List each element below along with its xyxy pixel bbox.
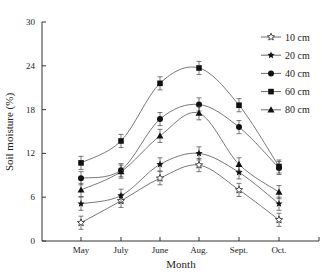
square-icon bbox=[276, 164, 282, 170]
triangle-icon bbox=[276, 189, 283, 195]
triangle-icon bbox=[78, 186, 85, 192]
legend: 10 cm20 cm40 cm60 cm80 cm bbox=[261, 32, 310, 116]
legend-label: 80 cm bbox=[285, 104, 310, 115]
soil-moisture-chart: 0612182430MayJulyJuneAug.Sept.Oct.MonthS… bbox=[0, 0, 332, 279]
x-axis-title: Month bbox=[166, 258, 196, 270]
y-axis-title: Soil moisture (%) bbox=[3, 93, 16, 172]
y-tick-label: 12 bbox=[26, 148, 35, 158]
square-icon bbox=[196, 65, 202, 71]
legend-label: 20 cm bbox=[285, 50, 310, 61]
y-tick-label: 18 bbox=[26, 105, 36, 115]
open-star-icon bbox=[156, 174, 163, 181]
circle-icon bbox=[157, 116, 163, 122]
x-tick-label: Sept. bbox=[230, 245, 248, 255]
legend-item: 20 cm bbox=[261, 50, 310, 61]
legend-label: 10 cm bbox=[285, 32, 310, 43]
square-icon bbox=[268, 89, 274, 95]
legend-item: 60 cm bbox=[261, 86, 310, 97]
square-icon bbox=[78, 160, 84, 166]
series-60-cm bbox=[78, 61, 282, 173]
triangle-icon bbox=[268, 106, 275, 112]
square-icon bbox=[118, 138, 124, 144]
square-icon bbox=[236, 102, 242, 108]
legend-item: 10 cm bbox=[261, 32, 310, 43]
legend-label: 60 cm bbox=[285, 86, 310, 97]
y-tick-label: 6 bbox=[31, 192, 36, 202]
open-star-icon bbox=[77, 219, 84, 226]
circle-icon bbox=[268, 70, 274, 76]
x-tick-label: July bbox=[113, 245, 129, 255]
x-tick-label: Oct. bbox=[271, 245, 286, 255]
square-icon bbox=[157, 81, 163, 87]
y-tick-label: 24 bbox=[26, 61, 36, 71]
circle-icon bbox=[236, 124, 242, 130]
series-80-cm bbox=[78, 107, 283, 199]
y-tick-label: 0 bbox=[31, 236, 36, 246]
circle-icon bbox=[78, 175, 84, 181]
legend-label: 40 cm bbox=[285, 68, 310, 79]
open-star-icon bbox=[195, 161, 202, 168]
triangle-icon bbox=[157, 132, 164, 138]
x-tick-label: Aug. bbox=[190, 245, 208, 255]
x-tick-label: May bbox=[73, 245, 90, 255]
legend-item: 80 cm bbox=[261, 104, 310, 115]
filled-star-icon bbox=[267, 51, 274, 58]
y-tick-label: 30 bbox=[26, 17, 36, 27]
legend-item: 40 cm bbox=[261, 68, 310, 79]
series-40-cm bbox=[78, 98, 282, 185]
series-10-cm bbox=[77, 159, 282, 230]
open-star-icon bbox=[275, 216, 282, 223]
x-tick-label: June bbox=[152, 245, 169, 255]
open-star-icon bbox=[267, 33, 274, 40]
